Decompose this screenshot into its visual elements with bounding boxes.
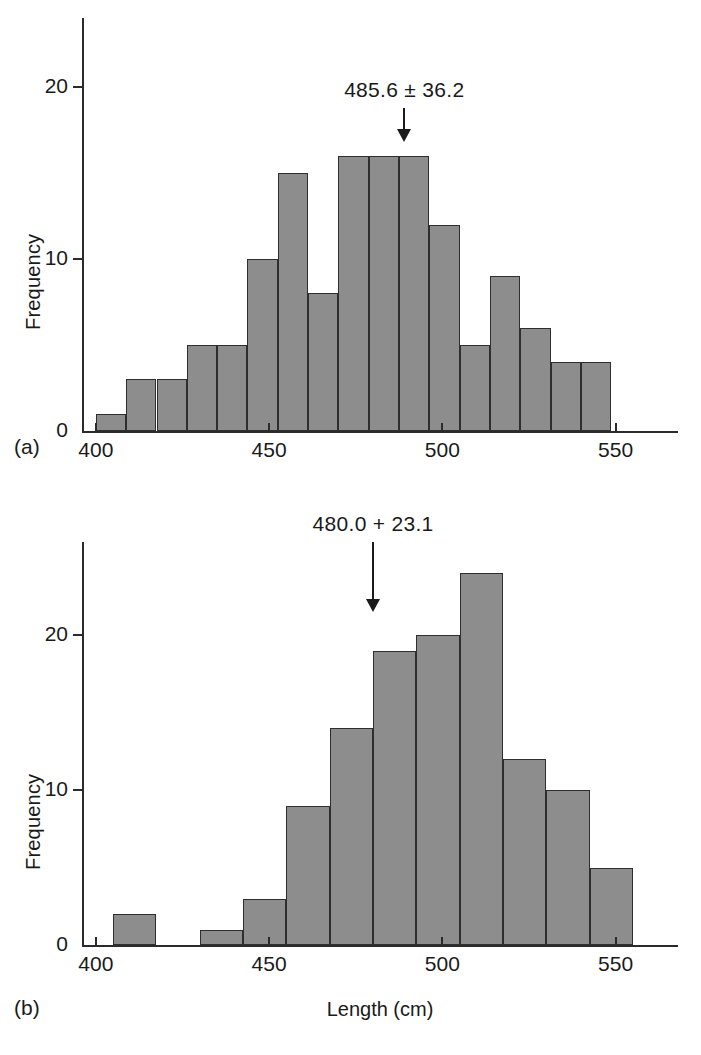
x-tick (268, 937, 270, 946)
bar (157, 379, 187, 431)
bar (429, 225, 459, 432)
x-tick (615, 423, 617, 432)
bar (243, 899, 286, 946)
bar (200, 930, 243, 946)
y-tick (73, 258, 83, 260)
bar (338, 156, 368, 431)
y-axis-b (82, 542, 84, 945)
bar (546, 790, 589, 945)
bar (399, 156, 429, 431)
bar (286, 806, 329, 946)
x-tick (95, 423, 97, 432)
plot-area-a (82, 18, 678, 431)
bar (590, 868, 633, 946)
x-tick-label: 450 (229, 438, 309, 462)
y-axis-label-b: Frequency (22, 774, 45, 870)
x-tick-label: 500 (402, 952, 482, 976)
x-tick (95, 937, 97, 946)
bar (460, 345, 490, 431)
bar (96, 414, 126, 431)
bar (308, 293, 338, 431)
bar (278, 173, 308, 431)
x-axis-label-b: Length (cm) (82, 998, 678, 1021)
y-tick (73, 634, 83, 636)
x-tick (441, 423, 443, 432)
x-tick-label: 400 (56, 438, 136, 462)
bar (217, 345, 247, 431)
bar (247, 259, 277, 431)
bar (369, 156, 399, 431)
x-tick-label: 450 (229, 952, 309, 976)
x-tick (615, 937, 617, 946)
x-tick-label: 550 (576, 438, 656, 462)
y-tick (73, 789, 83, 791)
bar (581, 362, 611, 431)
bar (330, 728, 373, 945)
x-tick-label: 500 (402, 438, 482, 462)
bars-b (82, 542, 678, 945)
y-tick-label: 20 (45, 74, 68, 98)
bar (373, 651, 416, 946)
panel-a: Frequency 485.6 ± 36.2 01020 40045050055… (0, 0, 701, 490)
y-axis-a (82, 18, 84, 431)
panel-b: Frequency 480.0 + 23.1 01020 40045050055… (0, 490, 701, 1055)
y-tick (73, 86, 83, 88)
figure-histograms: Frequency 485.6 ± 36.2 01020 40045050055… (0, 0, 701, 1055)
x-axis-a (82, 431, 678, 433)
bar (113, 914, 156, 945)
panel-tag-a: (a) (14, 435, 40, 459)
x-tick (441, 937, 443, 946)
bar (187, 345, 217, 431)
bar (520, 328, 550, 431)
y-axis-label-a: Frequency (22, 234, 45, 330)
bar (503, 759, 546, 945)
plot-area-b (82, 542, 678, 945)
bar (416, 635, 459, 945)
bar (126, 379, 156, 431)
panel-tag-b: (b) (14, 996, 40, 1020)
bar (490, 276, 520, 431)
bar (551, 362, 581, 431)
x-tick-label: 400 (56, 952, 136, 976)
annotation-mean-b: 480.0 + 23.1 (253, 512, 493, 536)
x-tick-label: 550 (576, 952, 656, 976)
x-tick (268, 423, 270, 432)
x-axis-b (82, 945, 678, 947)
y-tick-label: 10 (45, 777, 68, 801)
bars-a (82, 18, 678, 431)
y-tick-label: 10 (45, 246, 68, 270)
bar (460, 573, 503, 945)
y-tick-label: 20 (45, 622, 68, 646)
